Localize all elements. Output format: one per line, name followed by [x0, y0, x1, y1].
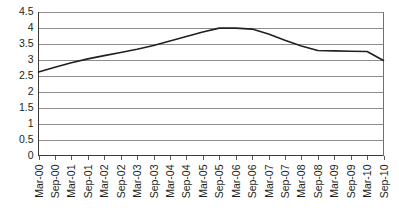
gridlines: [39, 13, 384, 141]
x-axis-tick-label: Sep-08: [312, 164, 324, 198]
y-axis-tick-label: 4.5: [19, 5, 34, 17]
x-axis-tick-label: Mar-03: [131, 164, 143, 197]
x-axis-tick-label: Mar-06: [230, 164, 242, 197]
line-chart: 00.511.522.533.544.5 Mar-00Sep-00Mar-01S…: [0, 0, 399, 208]
x-axis-tick-label: Sep-04: [180, 164, 192, 198]
y-axis-tick-label: 2.5: [19, 69, 34, 81]
data-series-line: [39, 28, 384, 72]
y-axis-tick-label: 1.5: [19, 101, 34, 113]
x-axis-tick-label: Mar-07: [263, 164, 275, 197]
y-axis-tick-labels: 00.511.522.533.544.5: [19, 5, 34, 161]
x-axis-tick-labels: Mar-00Sep-00Mar-01Sep-01Mar-02Sep-02Mar-…: [33, 164, 390, 198]
x-axis-tick-label: Mar-02: [98, 164, 110, 197]
x-axis-tick-label: Mar-08: [295, 164, 307, 197]
x-axis-tick-label: Sep-06: [246, 164, 258, 198]
x-axis-tick-label: Sep-01: [82, 164, 94, 198]
y-axis-tick-label: 2: [28, 85, 34, 97]
x-axis-tick-label: Sep-02: [115, 164, 127, 198]
chart-canvas: 00.511.522.533.544.5 Mar-00Sep-00Mar-01S…: [0, 0, 399, 208]
x-axis-tick-label: Sep-10: [378, 164, 390, 198]
y-axis-tick-label: 4: [28, 21, 34, 33]
y-axis-tick-label: 3: [28, 53, 34, 65]
x-axis-tick-label: Mar-09: [328, 164, 340, 197]
x-axis-tick-label: Sep-03: [148, 164, 160, 198]
x-axis-tick-label: Sep-07: [279, 164, 291, 198]
y-axis-tick-label: 1: [28, 117, 34, 129]
x-axis-tick-label: Sep-09: [345, 164, 357, 198]
x-axis-tick-label: Mar-04: [164, 164, 176, 197]
x-axis-tick-label: Mar-10: [361, 164, 373, 197]
x-axis-tick-label: Mar-05: [197, 164, 209, 197]
x-axis-tick-label: Sep-00: [49, 164, 61, 198]
x-axis-tick-label: Mar-00: [33, 164, 45, 197]
x-axis-tick-label: Mar-01: [65, 164, 77, 197]
x-axis-tick-label: Sep-05: [213, 164, 225, 198]
x-axis-tick-marks: [40, 156, 385, 160]
y-axis-tick-label: 0.5: [19, 133, 34, 145]
y-axis-tick-label: 3.5: [19, 37, 34, 49]
y-axis-tick-label: 0: [28, 149, 34, 161]
